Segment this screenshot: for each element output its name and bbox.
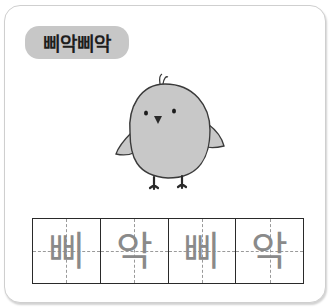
grid-cell: 악: [101, 219, 169, 283]
trace-character: 악: [251, 231, 288, 271]
worksheet-card: 삐악삐악 삐 악 삐: [4, 5, 326, 303]
grid-cell: 삐: [169, 219, 237, 283]
title-label: 삐악삐악: [43, 29, 111, 56]
trace-character: 삐: [183, 231, 220, 271]
trace-character: 악: [116, 231, 153, 271]
title-badge: 삐악삐악: [25, 26, 129, 59]
chick-icon: [110, 72, 230, 200]
grid-cell: 악: [236, 219, 303, 283]
writing-practice-grid: 삐 악 삐 악: [32, 218, 304, 284]
trace-character: 삐: [48, 231, 85, 271]
grid-cell: 삐: [33, 219, 101, 283]
